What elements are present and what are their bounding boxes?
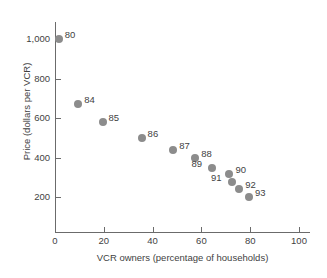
x-axis-line <box>55 232 310 233</box>
x-tick-label: 80 <box>230 236 270 246</box>
data-point <box>228 178 236 186</box>
data-point <box>169 146 177 154</box>
data-point <box>235 185 243 193</box>
x-tick-mark <box>104 227 105 232</box>
y-tick-label: 200 <box>4 192 50 202</box>
data-point-label: 84 <box>84 95 95 105</box>
data-point <box>208 164 216 172</box>
data-point-label: 86 <box>148 129 159 139</box>
data-point-label: 91 <box>211 173 222 183</box>
x-axis-title: VCR owners (percentage of households) <box>55 252 310 263</box>
x-tick-mark <box>299 227 300 232</box>
x-tick-label: 60 <box>181 236 221 246</box>
data-point-label: 80 <box>65 30 76 40</box>
data-point <box>245 193 253 201</box>
x-tick-label: 100 <box>279 236 319 246</box>
x-tick-label: 40 <box>133 236 173 246</box>
data-point-label: 85 <box>109 113 120 123</box>
y-tick-mark <box>56 197 61 198</box>
data-point-label: 89 <box>191 159 202 169</box>
y-tick-mark <box>56 158 61 159</box>
data-point-label: 90 <box>235 165 246 175</box>
data-point-label: 93 <box>255 188 266 198</box>
y-axis-line <box>55 22 56 233</box>
y-tick-mark <box>56 79 61 80</box>
x-tick-label: 20 <box>84 236 124 246</box>
data-point-label: 88 <box>201 149 212 159</box>
x-tick-label: 0 <box>35 236 75 246</box>
y-axis-title: Price (dollars per VCR) <box>21 32 32 192</box>
scatter-chart: 2004006008001,000 020406080100 Price (do… <box>0 0 327 278</box>
data-point <box>138 134 146 142</box>
data-point <box>74 100 82 108</box>
data-point-label: 87 <box>179 141 190 151</box>
x-tick-mark <box>201 227 202 232</box>
x-tick-mark <box>250 227 251 232</box>
x-tick-mark <box>153 227 154 232</box>
data-point <box>99 118 107 126</box>
y-tick-mark <box>56 118 61 119</box>
data-point <box>225 170 233 178</box>
data-point <box>55 35 63 43</box>
